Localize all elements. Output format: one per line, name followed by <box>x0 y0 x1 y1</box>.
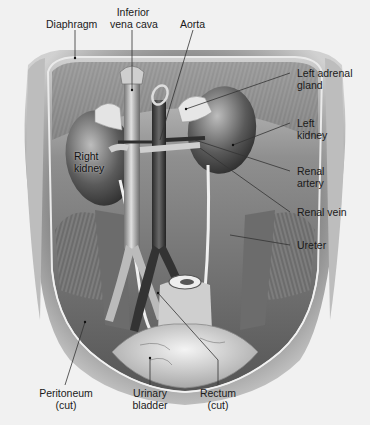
label-left-adrenal-line1: Left adrenal <box>297 67 352 79</box>
label-bladder-line1: Urinary <box>128 387 172 399</box>
label-aorta: Aorta <box>180 18 205 30</box>
anatomy-diagram: Diaphragm Inferior vena cava Aorta Left … <box>0 0 370 425</box>
label-left-adrenal-gland: Left adrenal gland <box>297 67 352 91</box>
label-rectum-line2: (cut) <box>198 399 238 411</box>
inferior-vena-cava <box>124 70 140 250</box>
label-ivc-line2: vena cava <box>110 18 156 30</box>
label-renal-vein: Renal vein <box>297 206 347 218</box>
aorta <box>152 100 166 250</box>
label-left-kidney: Left kidney <box>297 117 327 141</box>
label-renal-artery: Renal artery <box>297 165 324 189</box>
label-bladder-line2: bladder <box>128 399 172 411</box>
label-rectum-line1: Rectum <box>198 387 238 399</box>
label-urinary-bladder: Urinary bladder <box>128 387 172 411</box>
label-left-adrenal-line2: gland <box>297 79 352 91</box>
label-peritoneum: Peritoneum (cut) <box>38 387 94 411</box>
label-ureter: Ureter <box>297 239 326 251</box>
label-right-kidney-line1: Right <box>74 150 104 162</box>
label-right-kidney-line2: kidney <box>74 162 104 174</box>
label-left-kidney-line2: kidney <box>297 129 327 141</box>
label-renal-artery-line2: artery <box>297 177 324 189</box>
renal-vein-right <box>110 147 128 150</box>
label-peritoneum-line1: Peritoneum <box>38 387 94 399</box>
label-renal-artery-line1: Renal <box>297 165 324 177</box>
label-inferior-vena-cava: Inferior vena cava <box>110 6 156 30</box>
label-ivc-line1: Inferior <box>110 6 156 18</box>
label-peritoneum-line2: (cut) <box>38 399 94 411</box>
label-right-kidney: Right kidney <box>74 150 104 174</box>
renal-artery-left <box>166 138 205 140</box>
label-diaphragm: Diaphragm <box>46 18 97 30</box>
label-left-kidney-line1: Left <box>297 117 327 129</box>
label-rectum: Rectum (cut) <box>198 387 238 411</box>
